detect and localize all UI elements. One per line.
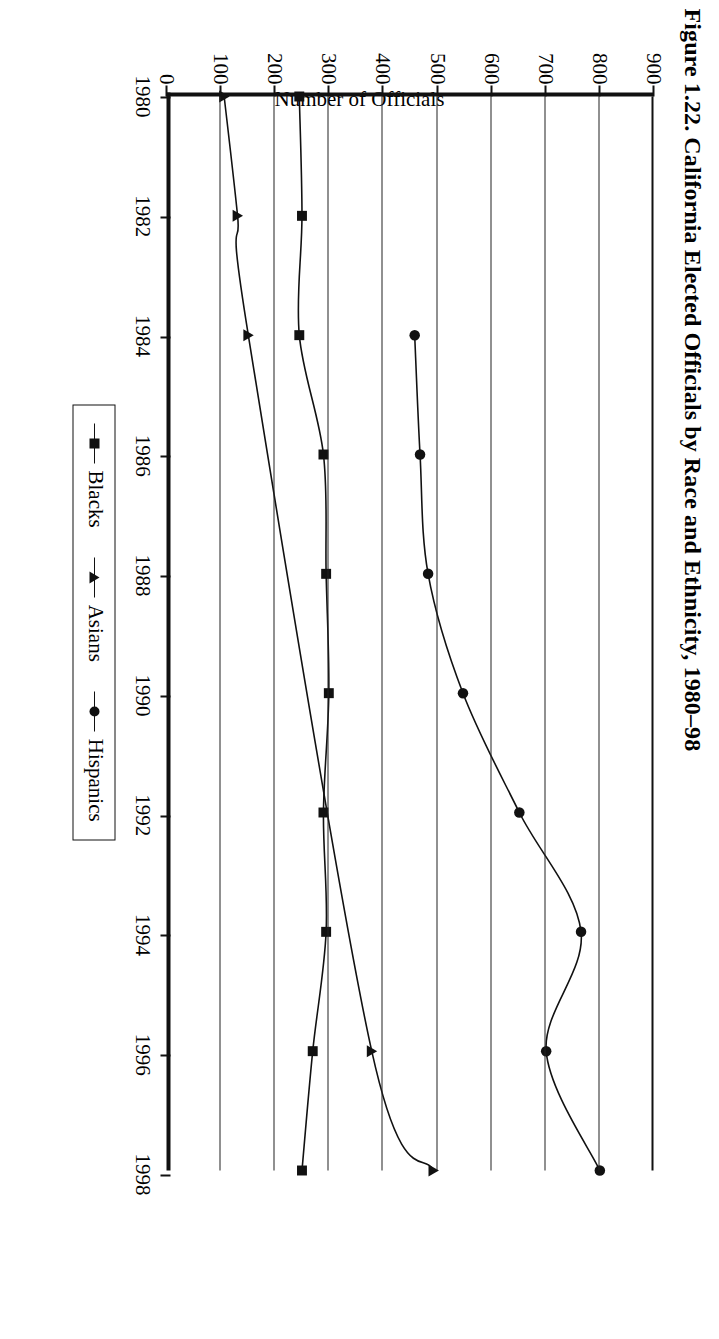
legend-item-blacks[interactable]: Blacks (82, 423, 107, 527)
y-tick-mark (381, 85, 383, 96)
gridline (273, 96, 274, 1170)
y-tick-label: 800 (586, 53, 611, 85)
legend-label-blacks: Blacks (82, 470, 107, 527)
data-point-circle-marker (575, 926, 586, 937)
series-line-blacks (298, 96, 329, 1170)
gridline (381, 96, 382, 1170)
x-tick-label: 1996 (129, 1033, 154, 1075)
data-point-square-marker (294, 330, 304, 340)
y-tick-mark (544, 85, 546, 96)
y-tick-label: 900 (641, 53, 666, 85)
y-tick-mark (219, 85, 221, 96)
y-tick-mark (273, 85, 275, 96)
data-point-square-marker (297, 210, 307, 220)
gridline (219, 96, 220, 1170)
triangle-marker-icon (88, 557, 102, 597)
x-tick-mark (160, 1174, 170, 1176)
gridline (651, 96, 653, 1170)
plot-inner (170, 96, 653, 1170)
rotated-page-wrapper: Figure 1.22. California Elected Official… (0, 0, 719, 1339)
x-tick-mark (160, 455, 170, 457)
x-tick-label: 1982 (129, 195, 154, 237)
plot-area: 9008007006005004003002001000198019821984… (166, 92, 653, 1170)
y-tick-label: 600 (478, 53, 503, 85)
gridline (598, 96, 599, 1170)
gridline (436, 96, 437, 1170)
y-tick-mark (490, 85, 492, 96)
x-tick-mark (160, 575, 170, 577)
y-tick-label: 500 (424, 53, 449, 85)
data-point-square-marker (294, 91, 304, 101)
y-tick-label: 200 (262, 53, 287, 85)
figure-container: Figure 1.22. California Elected Official… (0, 0, 719, 1339)
data-point-square-marker (321, 926, 331, 936)
x-tick-label: 1988 (129, 554, 154, 596)
y-tick-mark (165, 85, 167, 96)
gridline (327, 96, 328, 1170)
figure-title: Figure 1.22. California Elected Official… (678, 8, 705, 751)
x-tick-label: 1992 (129, 794, 154, 836)
y-tick-mark (652, 85, 654, 96)
x-tick-mark (160, 934, 170, 936)
data-point-circle-marker (514, 807, 525, 818)
x-tick-mark (160, 815, 170, 817)
data-point-square-marker (318, 449, 328, 459)
x-tick-mark (160, 695, 170, 697)
data-point-square-marker (297, 1165, 307, 1175)
legend-item-asians[interactable]: Asians (82, 557, 107, 661)
x-tick-label: 1986 (129, 434, 154, 476)
y-tick-label: 700 (532, 53, 557, 85)
x-tick-mark (160, 336, 170, 338)
y-tick-label: 300 (316, 53, 341, 85)
x-tick-mark (160, 216, 170, 218)
x-tick-label: 1994 (129, 913, 154, 955)
x-tick-mark (160, 1054, 170, 1056)
circle-marker-icon (88, 691, 102, 731)
x-tick-label: 1980 (129, 75, 154, 117)
x-tick-label: 1984 (129, 315, 154, 357)
series-layer (170, 96, 653, 1170)
data-point-square-marker (321, 568, 331, 578)
y-tick-label: 400 (370, 53, 395, 85)
data-point-square-marker (307, 1046, 317, 1056)
legend-item-hispanics[interactable]: Hispanics (82, 691, 107, 821)
y-tick-mark (598, 85, 600, 96)
data-point-circle-marker (540, 1045, 551, 1056)
y-tick-mark (436, 85, 438, 96)
square-marker-icon (88, 423, 102, 463)
x-tick-label: 1990 (129, 674, 154, 716)
legend: Blacks Asians Hispanics (72, 404, 115, 840)
series-line-hispanics (414, 335, 599, 1170)
y-tick-label: 0 (154, 74, 179, 85)
gridline (490, 96, 491, 1170)
y-tick-label: 100 (208, 53, 233, 85)
data-point-circle-marker (414, 449, 425, 460)
y-tick-mark (327, 85, 329, 96)
x-tick-label: 1998 (129, 1153, 154, 1195)
gridline (544, 96, 545, 1170)
legend-label-hispanics: Hispanics (82, 738, 107, 821)
data-point-circle-marker (422, 568, 433, 579)
data-point-circle-marker (409, 329, 420, 340)
legend-label-asians: Asians (82, 604, 107, 661)
x-tick-mark (160, 96, 170, 98)
data-point-circle-marker (457, 687, 468, 698)
